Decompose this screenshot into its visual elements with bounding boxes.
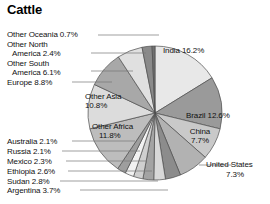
pie-chart-figure: Cattle India 16.2%Brazil 12.6%China 7.7%… — [0, 0, 270, 204]
slice-label-ethiopia: Ethiopia 2.6% — [7, 167, 55, 176]
slice-label-russia: Russia 2.1% — [7, 147, 51, 156]
slice-label-united-states-value: 7.3% — [206, 170, 264, 179]
slice-label-other-africa-name: Other Africa — [92, 122, 133, 131]
slice-label-europe: Europe 8.8% — [7, 78, 52, 87]
slice-label-other-oceania: Other Oceania 0.7% — [7, 30, 78, 39]
slice-label-other-north-america-l1: Other North — [7, 40, 48, 49]
slice-label-argentina: Argentina 3.7% — [7, 186, 60, 195]
slice-label-other-africa-value: 11.8% — [99, 131, 121, 140]
slice-label-china-name: China — [180, 127, 220, 136]
slice-label-other-south-america-l2: America 6.1% — [12, 68, 61, 77]
slice-label-china-value: 7.7% — [180, 136, 220, 145]
slice-label-australia: Australia 2.1% — [7, 137, 57, 146]
slice-label-sudan: Sudan 2.8% — [7, 177, 50, 186]
slice-label-other-asia-value: 10.8% — [85, 101, 107, 110]
slice-label-other-south-america-l1: Other South — [7, 59, 49, 68]
slice-label-other-asia-name: Other Asia — [85, 92, 121, 101]
slice-label-united-states-name: United States — [206, 160, 253, 169]
slice-label-brazil: Brazil 12.6% — [186, 111, 230, 120]
slice-label-india: India 16.2% — [163, 46, 204, 55]
slice-label-mexico: Mexico 2.3% — [7, 157, 52, 166]
slice-label-other-north-america-l2: America 2.4% — [12, 49, 61, 58]
